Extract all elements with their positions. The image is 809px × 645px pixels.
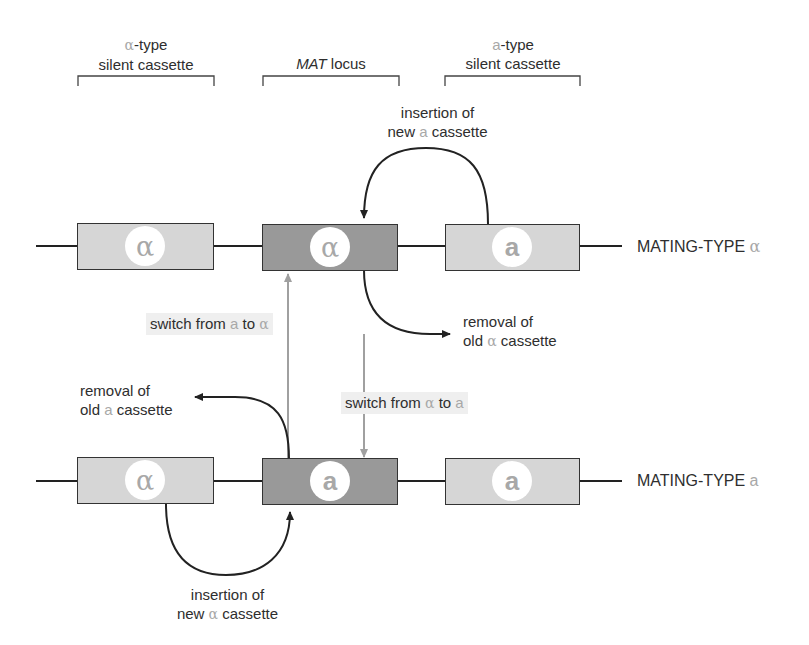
- bracket-a-silent: [445, 76, 580, 86]
- cassette-bottom-alpha-silent: α: [77, 457, 214, 504]
- arrow-remove-old-a: [195, 397, 289, 459]
- mating-type-a-label: MATING-TYPE a: [637, 471, 759, 490]
- arrow-insert-new-a: [364, 148, 488, 224]
- header-alpha-silent: α-type silent cassette: [70, 35, 222, 74]
- bracket-alpha-silent: [78, 76, 214, 86]
- cassette-bottom-mat-locus: a: [262, 458, 398, 505]
- label-switch-a-to-alpha: switch from a to α: [146, 313, 273, 335]
- a-symbol: a: [492, 227, 532, 267]
- a-symbol: a: [492, 461, 532, 501]
- label-insertion-new-alpha: insertion of new α cassette: [155, 585, 300, 624]
- alpha-symbol: α: [125, 460, 165, 500]
- label-switch-alpha-to-a: switch from α to a: [341, 392, 468, 414]
- cassette-top-mat-locus: α: [262, 224, 398, 271]
- mating-type-alpha-label: MATING-TYPE α: [637, 237, 760, 256]
- diagram-graphics: [0, 0, 809, 645]
- label-insertion-new-a: insertion of new a cassette: [365, 103, 510, 141]
- cassette-top-alpha-silent: α: [77, 223, 214, 270]
- cassette-bottom-a-silent: a: [445, 458, 580, 505]
- label-removal-old-alpha: removal of old α cassette: [463, 312, 557, 351]
- arrow-remove-old-alpha: [364, 270, 450, 334]
- alpha-symbol: α: [310, 227, 350, 267]
- alpha-symbol: α: [125, 37, 134, 53]
- header-a-silent: a-type silent cassette: [437, 35, 589, 73]
- cassette-top-a-silent: a: [445, 224, 580, 271]
- a-symbol: a: [310, 461, 350, 501]
- label-removal-old-a: removal of old a cassette: [80, 381, 173, 419]
- header-mat-locus: MAT locus: [255, 54, 407, 73]
- bracket-mat-locus: [263, 76, 399, 86]
- alpha-symbol: α: [125, 226, 165, 266]
- arrow-insert-new-alpha: [166, 504, 290, 575]
